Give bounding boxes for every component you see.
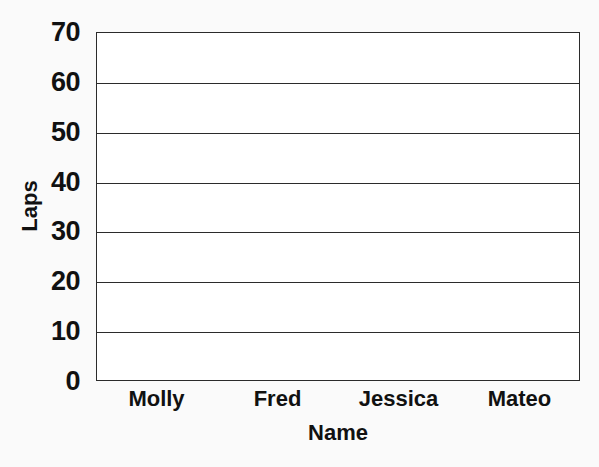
bar-slot-fred xyxy=(218,33,339,380)
bar-chart-figure: Laps 70 60 50 40 30 20 10 0 Molly Fred J… xyxy=(0,0,599,467)
x-tick-label-jessica: Jessica xyxy=(338,388,459,410)
x-tick-label-mateo: Mateo xyxy=(459,388,580,410)
bar-slot-mateo xyxy=(459,33,580,380)
y-tick-label-60: 60 xyxy=(10,68,80,95)
bar-slot-jessica xyxy=(338,33,459,380)
y-tick-label-70: 70 xyxy=(10,19,80,46)
bar-slot-molly xyxy=(97,33,218,380)
plot-area xyxy=(96,32,580,381)
x-axis-tick-labels: Molly Fred Jessica Mateo xyxy=(96,388,580,410)
x-tick-label-molly: Molly xyxy=(96,388,217,410)
y-tick-label-10: 10 xyxy=(10,318,80,345)
y-tick-label-40: 40 xyxy=(10,168,80,195)
y-tick-label-20: 20 xyxy=(10,268,80,295)
x-tick-label-fred: Fred xyxy=(217,388,338,410)
bars-layer xyxy=(97,33,579,380)
x-axis-title: Name xyxy=(96,422,580,444)
y-tick-label-50: 50 xyxy=(10,118,80,145)
y-tick-label-30: 30 xyxy=(10,218,80,245)
y-tick-label-0: 0 xyxy=(10,368,80,395)
